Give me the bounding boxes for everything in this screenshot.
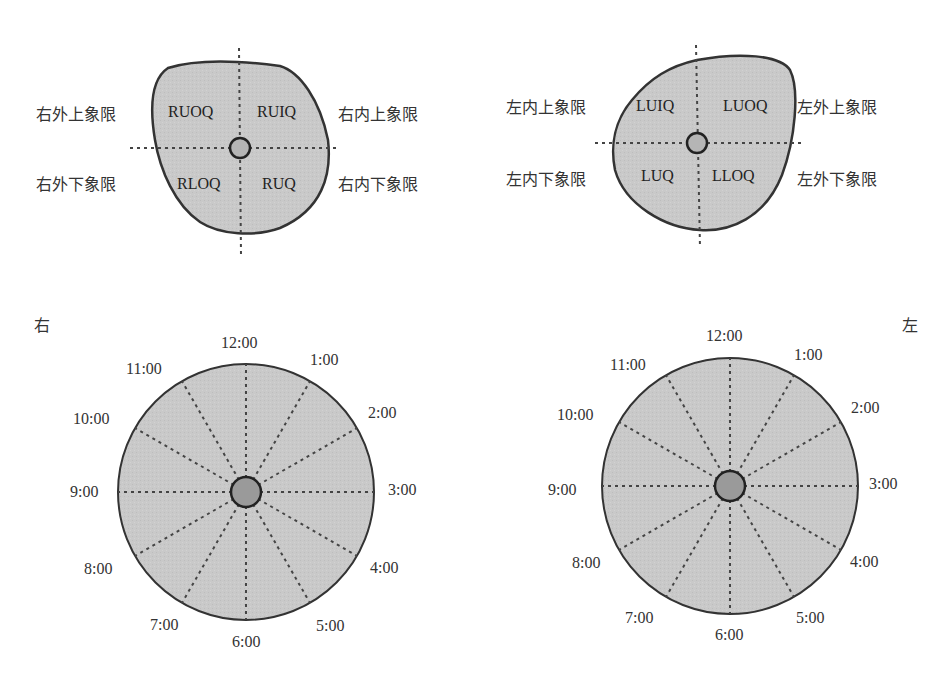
right-upper-inner-code: RUIQ [257,104,296,120]
left-clock-4: 4:00 [850,554,878,570]
right-lower-inner-code: RUQ [262,176,296,192]
left-breast-quadrant-shape [595,45,805,248]
right-clock-1: 1:00 [310,352,338,368]
left-lower-inner-label: 左内下象限 [506,172,586,188]
left-upper-inner-label: 左内上象限 [506,100,586,116]
right-clock-11: 11:00 [126,361,162,377]
right-upper-inner-label: 右内上象限 [338,107,418,123]
right-lower-inner-label: 右内下象限 [338,177,418,193]
right-clock-8: 8:00 [84,561,112,577]
left-clock-3: 3:00 [869,476,897,492]
left-clock-2: 2:00 [851,400,879,416]
right-clock-3: 3:00 [388,482,416,498]
left-clock-5: 5:00 [796,610,824,626]
right-lower-outer-code: RLOQ [177,176,221,192]
right-clock-face [118,364,374,620]
right-clock-4: 4:00 [370,560,398,576]
right-clock-10: 10:00 [73,411,109,427]
right-upper-outer-code: RUOQ [168,104,213,120]
right-side-label: 右 [34,318,50,334]
right-clock-9: 9:00 [70,484,98,500]
right-clock-6: 6:00 [232,634,260,650]
left-side-label: 左 [902,318,918,334]
right-clock-7: 7:00 [150,617,178,633]
left-lower-outer-code: LLOQ [712,168,755,184]
left-clock-7: 7:00 [625,610,653,626]
right-breast-quadrant-shape [130,48,338,255]
left-clock-6: 6:00 [715,627,743,643]
right-clock-5: 5:00 [316,618,344,634]
left-lower-outer-label: 左外下象限 [797,172,877,188]
left-lower-inner-code: LUQ [641,168,674,184]
left-clock-11: 11:00 [610,357,646,373]
left-clock-12: 12:00 [706,328,742,344]
left-clock-1: 1:00 [794,347,822,363]
left-upper-outer-code: LUOQ [723,98,767,114]
figure-caption-cropped [0,672,950,680]
left-clock-face [602,358,858,614]
left-upper-outer-label: 左外上象限 [797,100,877,116]
left-clock-8: 8:00 [572,555,600,571]
right-upper-outer-label: 右外上象限 [36,107,116,123]
right-clock-2: 2:00 [368,405,396,421]
right-lower-outer-label: 右外下象限 [36,177,116,193]
right-clock-12: 12:00 [221,335,257,351]
left-clock-10: 10:00 [557,407,593,423]
left-clock-9: 9:00 [548,482,576,498]
left-upper-inner-code: LUIQ [636,98,674,114]
